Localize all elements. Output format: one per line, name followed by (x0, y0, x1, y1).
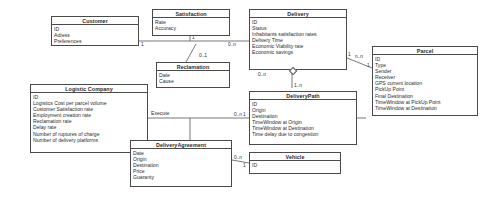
attribute-item: ID (252, 162, 340, 168)
multiplicity-satisfaction-bottom: 1 (192, 35, 195, 40)
class-attributes-satisfaction: Rate Accuracy (153, 18, 229, 32)
attribute-item: Economic savings (252, 49, 346, 55)
class-box-parcel[interactable]: Parcel ID Type Sender Receiver GPS curre… (372, 46, 478, 116)
class-attributes-delivery: ID Status Inhabitants satisfaction rates… (250, 18, 346, 57)
class-box-customer[interactable]: Customer ID Adress Preferences (51, 16, 139, 46)
class-title-logistic-company: Logistic Company (31, 85, 147, 93)
class-box-delivery-agreement[interactable]: DeliveryAgreement Date Origin Destinatio… (130, 140, 232, 187)
class-title-reclamation: Reclamation (157, 63, 229, 71)
class-title-parcel: Parcel (373, 47, 477, 55)
attribute-item: Accuracy (155, 25, 229, 31)
multiplicity-delivery-agreement-right: 0..n (234, 155, 242, 160)
attribute-item: Cause (159, 78, 229, 84)
class-title-delivery: Delivery (250, 10, 346, 18)
class-attributes-delivery-path: ID Origin Destination TimeWindow at Orig… (250, 100, 356, 139)
attribute-item: Preferences (54, 38, 138, 44)
attribute-item: TimeWindow at Destination (375, 105, 477, 111)
class-attributes-customer: ID Adress Preferences (52, 25, 138, 45)
multiplicity-delivery-right: 1 (348, 52, 351, 57)
multiplicity-parcel-left: 1 (367, 63, 370, 68)
class-attributes-parcel: ID Type Sender Receiver GPS current loca… (373, 55, 477, 112)
class-box-vehicle[interactable]: Vehicle ID (249, 152, 341, 174)
uml-class-diagram-canvas: Customer ID Adress Preferences Satisfact… (0, 0, 490, 197)
class-title-customer: Customer (52, 17, 138, 25)
class-attributes-reclamation: Date Cause (157, 71, 229, 85)
class-title-vehicle: Vehicle (250, 153, 340, 161)
class-title-delivery-path: DeliveryPath (250, 92, 356, 100)
attribute-item: Time delay due to congestion (252, 131, 356, 137)
multiplicity-delivery-parcel: n..n (355, 54, 363, 59)
class-attributes-vehicle: ID (250, 161, 340, 169)
multiplicity-delivery-path-left: 1 (243, 112, 246, 117)
multiplicity-vehicle-left: 1 (243, 163, 246, 168)
class-box-reclamation[interactable]: Reclamation Date Cause (156, 62, 230, 88)
class-attributes-logistic-company: ID Logistics Cost per parcel volume Cust… (31, 93, 147, 144)
class-box-delivery-path[interactable]: DeliveryPath ID Origin Destination TimeW… (249, 91, 357, 145)
multiplicity-delivery-left: 0..n (228, 42, 236, 47)
class-title-delivery-agreement: DeliveryAgreement (131, 141, 231, 149)
multiplicity-customer-right: 1 (141, 42, 144, 47)
class-attributes-delivery-agreement: Date Origin Destination Price Guaranty (131, 149, 231, 181)
multiplicity-delivery-path-agreement: 0..n (234, 112, 242, 117)
class-title-satisfaction: Satisfaction (153, 10, 229, 18)
multiplicity-delivery-path-top: 1..n (294, 83, 302, 88)
multiplicity-reclamation-top: 0..1 (199, 53, 207, 58)
multiplicity-delivery-bottom: 0..n (258, 72, 266, 77)
class-box-delivery[interactable]: Delivery ID Status Inhabitants satisfact… (249, 9, 347, 70)
attribute-item: Guaranty (133, 174, 231, 180)
class-box-satisfaction[interactable]: Satisfaction Rate Accuracy (152, 9, 230, 36)
edge-label-execute: Execute (151, 111, 169, 117)
